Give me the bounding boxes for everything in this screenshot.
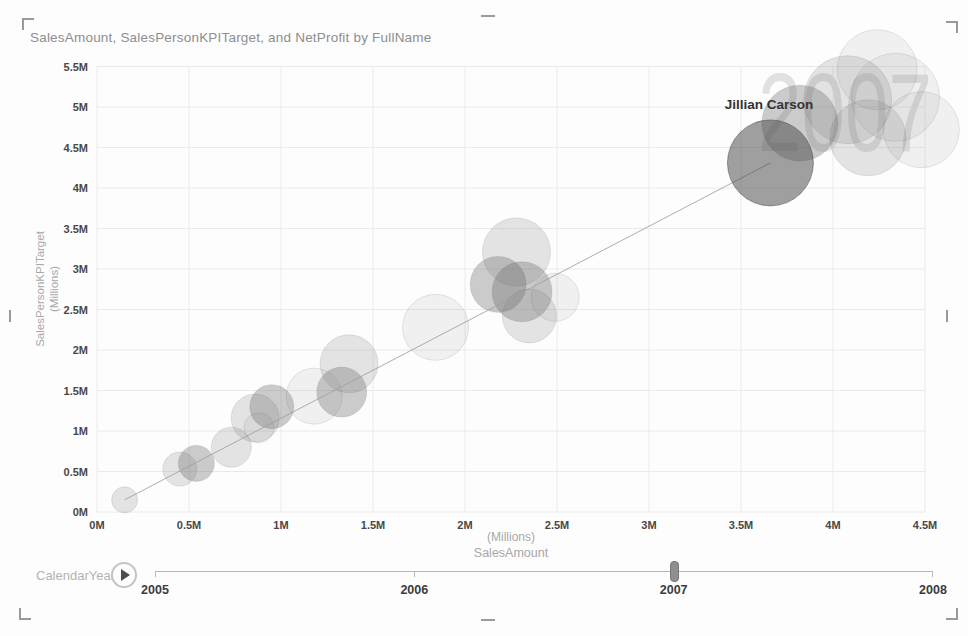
year-label-2008: 2008	[903, 583, 963, 597]
year-label-2007: 2007	[644, 583, 704, 597]
bubble[interactable]	[403, 294, 469, 360]
y-tick-label: 0M	[73, 506, 88, 518]
x-tick-label: 4M	[825, 519, 840, 531]
y-tick-label: 2M	[73, 344, 88, 356]
bubble[interactable]	[178, 445, 214, 481]
x-tick-label: 0.5M	[177, 519, 201, 531]
timeline-track[interactable]: 2005200620072008	[155, 571, 933, 572]
play-icon	[121, 569, 130, 581]
y-tick-label: 1M	[73, 425, 88, 437]
x-axis-unit: (Millions)	[487, 530, 535, 544]
y-tick-label: 5.5M	[64, 61, 88, 73]
play-axis-field-label: CalendarYear	[36, 568, 115, 583]
x-tick-label: 0M	[89, 519, 104, 531]
y-tick-label: 5M	[73, 101, 88, 113]
y-tick-label: 4.5M	[64, 142, 88, 154]
x-tick-label: 3M	[641, 519, 656, 531]
y-tick-label: 1.5M	[64, 385, 88, 397]
timeline-tick	[155, 571, 156, 577]
highlight-label: Jillian Carson	[725, 97, 814, 112]
y-axis-unit: (Millions)	[48, 266, 60, 312]
y-axis-title: SalesPersonKPITarget	[34, 230, 46, 347]
bubble[interactable]	[531, 273, 579, 321]
x-tick-label: 1.5M	[361, 519, 385, 531]
x-tick-label: 3.5M	[729, 519, 753, 531]
bubble[interactable]	[320, 335, 378, 393]
x-tick-label: 4.5M	[913, 519, 937, 531]
y-tick-label: 3M	[73, 263, 88, 275]
x-tick-label: 2.5M	[545, 519, 569, 531]
y-tick-label: 4M	[73, 182, 88, 194]
y-tick-label: 2.5M	[64, 304, 88, 316]
bubble[interactable]	[837, 30, 917, 110]
year-label-2005: 2005	[125, 583, 185, 597]
timeline-tick	[932, 571, 933, 577]
trail-line	[125, 163, 771, 500]
x-tick-label: 1M	[273, 519, 288, 531]
year-label-2006: 2006	[384, 583, 444, 597]
bubble-jillian-carson[interactable]	[727, 120, 813, 206]
powerview-bubble-chart-visual: SalesAmount, SalesPersonKPITarget, and N…	[0, 0, 968, 636]
timeline-slider-thumb[interactable]	[670, 561, 679, 582]
x-tick-label: 2M	[457, 519, 472, 531]
x-axis-title: SalesAmount	[474, 546, 549, 560]
bubble-layer	[112, 30, 960, 513]
timeline-tick	[414, 571, 415, 577]
y-tick-label: 3.5M	[64, 223, 88, 235]
y-tick-label: 0.5M	[64, 466, 88, 478]
chart-plot-area: 2007 Jillian Carson (Millions) SalesAmou…	[0, 0, 968, 636]
